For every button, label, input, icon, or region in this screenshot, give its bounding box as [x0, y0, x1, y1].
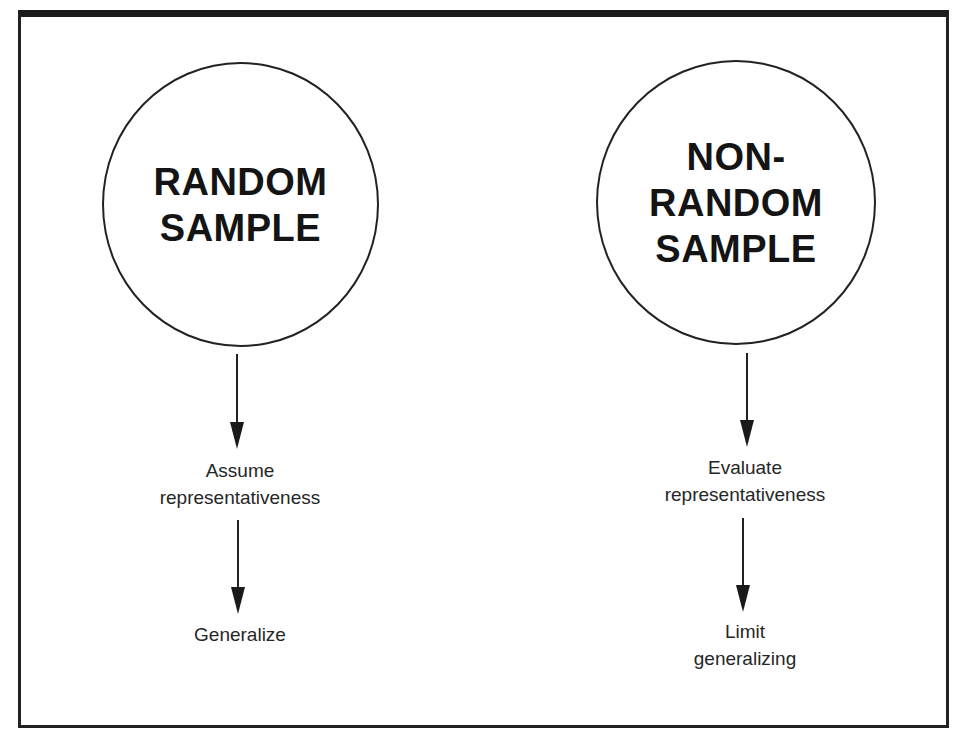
title-line: SAMPLE	[154, 205, 328, 251]
non-random-sample-circle: NON- RANDOM SAMPLE	[596, 60, 876, 345]
assume-representativeness-label: Assume representativeness	[140, 457, 340, 511]
step-line: representativeness	[640, 481, 850, 508]
evaluate-representativeness-label: Evaluate representativeness	[640, 454, 850, 508]
title-line: SAMPLE	[649, 226, 823, 272]
random-sample-circle: RANDOM SAMPLE	[102, 62, 379, 347]
arrow-down-icon	[733, 518, 753, 612]
step-line: Evaluate	[640, 454, 850, 481]
step-line: Assume	[140, 457, 340, 484]
non-random-sample-title: NON- RANDOM SAMPLE	[649, 134, 823, 272]
random-sample-title: RANDOM SAMPLE	[154, 159, 328, 251]
title-line: NON-	[649, 134, 823, 180]
arrow-down-icon	[228, 520, 248, 614]
generalize-label: Generalize	[140, 621, 340, 648]
title-line: RANDOM	[154, 159, 328, 205]
step-line: representativeness	[140, 484, 340, 511]
limit-generalizing-label: Limit generalizing	[640, 618, 850, 672]
title-line: RANDOM	[649, 180, 823, 226]
arrow-down-icon	[737, 353, 757, 447]
step-line: Generalize	[140, 621, 340, 648]
arrow-down-icon	[227, 354, 247, 449]
step-line: Limit	[640, 618, 850, 645]
step-line: generalizing	[640, 645, 850, 672]
